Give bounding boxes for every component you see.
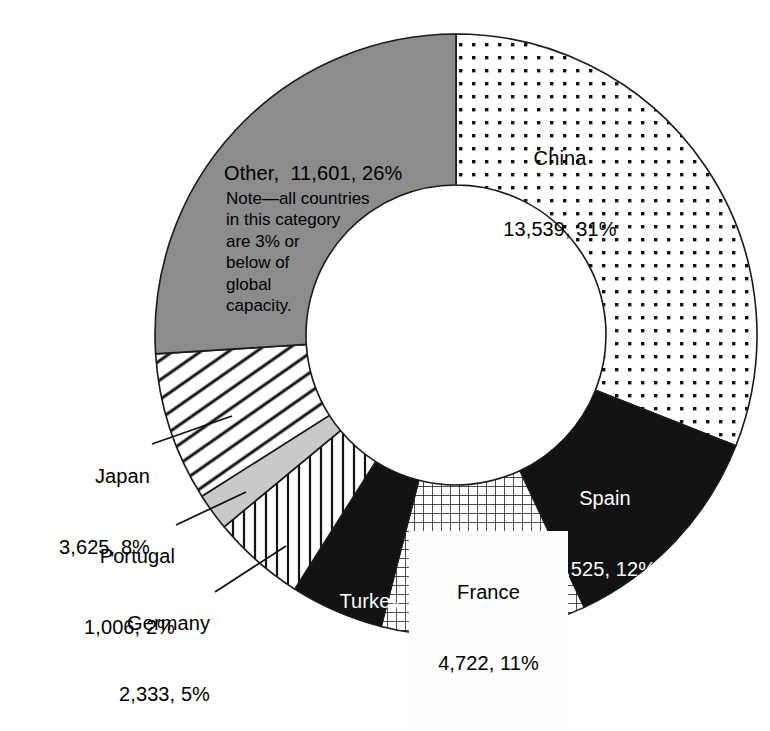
slice-label-japan-line1: Japan [0, 465, 150, 489]
slice-label-japan-line2: 3,625, 8% [0, 536, 150, 560]
slice-label-japan: Japan 3,625, 8% [0, 418, 150, 607]
other-slice-note: Note—all countries in this category are … [226, 188, 441, 316]
slice-label-france-line2: 4,722, 11% [416, 652, 561, 676]
slice-label-other-line1: Other, 11,601, 26% [224, 162, 524, 186]
slice-label-spain-line1: Spain [520, 487, 690, 511]
slice-label-france-line1: France [416, 581, 561, 605]
slice-label-turkey: Turkey 2,424, 5% [307, 543, 433, 731]
slice-label-turkey-line1: Turkey [307, 590, 433, 614]
slice-label-turkey-line2: 2,424, 5% [307, 661, 433, 685]
slice-label-portugal-line2: 1,006, 2% [10, 616, 175, 640]
